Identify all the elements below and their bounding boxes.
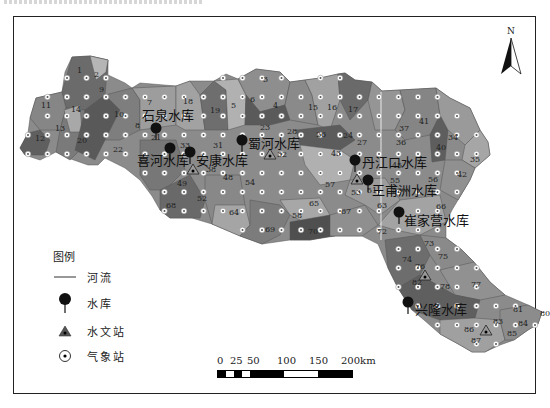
reservoir-pin-icon xyxy=(350,155,361,166)
subbasin-label: 16 xyxy=(327,103,337,112)
hydro-station-icon xyxy=(419,270,431,280)
subbasin-label: 35 xyxy=(470,155,480,164)
subbasin-label: 80 xyxy=(540,309,550,318)
reservoir-marker: 兴隆水库 xyxy=(403,297,468,318)
subbasin-label: 12 xyxy=(35,134,45,143)
weather-station-icon xyxy=(142,132,148,138)
reservoir-label: 安康水库 xyxy=(196,153,248,168)
subbasin-label: 64 xyxy=(229,208,239,217)
weather-station-icon xyxy=(240,75,246,81)
subbasin-label: 34 xyxy=(448,133,458,142)
subbasin-label: 84 xyxy=(518,319,528,328)
weather-station-icon xyxy=(45,113,51,119)
reservoir-pin-icon xyxy=(53,292,77,314)
legend-label: 气象站 xyxy=(87,348,126,364)
weather-station-icon xyxy=(259,151,265,157)
weather-station-icon xyxy=(103,151,109,157)
weather-station-icon xyxy=(240,94,246,100)
weather-station-icon xyxy=(279,113,285,119)
weather-station-icon xyxy=(337,189,343,195)
weather-station-icon xyxy=(454,265,460,271)
weather-station-icon xyxy=(64,94,70,100)
weather-station-icon xyxy=(396,265,402,271)
reservoir-label: 喜河水库 xyxy=(137,153,189,168)
weather-station-icon xyxy=(298,113,304,119)
weather-station-icon xyxy=(396,246,402,252)
weather-station-icon xyxy=(454,246,460,252)
subbasin-label: 69 xyxy=(265,225,275,234)
subbasin-label: 75 xyxy=(438,252,448,261)
weather-station-icon xyxy=(64,113,70,119)
subbasin-label: 85 xyxy=(507,329,517,338)
weather-station-icon xyxy=(279,170,285,176)
subbasin-label: 83 xyxy=(493,317,503,326)
weather-station-icon xyxy=(493,303,499,309)
subbasin-label: 73 xyxy=(424,239,434,248)
weather-station-icon xyxy=(84,151,90,157)
weather-station-icon xyxy=(357,208,363,214)
subbasin-label: 63 xyxy=(377,201,387,210)
legend-item-weather-station: 气象站 xyxy=(53,343,126,368)
weather-station-icon xyxy=(318,170,324,176)
weather-station-icon xyxy=(220,75,226,81)
subbasin-label: 11 xyxy=(41,101,51,110)
subbasin-label: 9 xyxy=(99,85,104,94)
weather-station-icon xyxy=(181,170,187,176)
weather-station-icon xyxy=(259,227,265,233)
weather-station-icon xyxy=(240,189,246,195)
weather-station-icon xyxy=(396,94,402,100)
subbasin-label: 3 xyxy=(263,75,268,84)
subbasin-label: 4 xyxy=(273,101,278,110)
weather-station-icon xyxy=(84,94,90,100)
weather-station-icon xyxy=(25,132,31,138)
subbasin-label: 26 xyxy=(316,130,326,139)
subbasin-label: 68 xyxy=(166,201,176,210)
weather-station-icon xyxy=(318,208,324,214)
weather-station-icon xyxy=(474,132,480,138)
weather-station-icon xyxy=(220,94,226,100)
weather-station-icon xyxy=(337,227,343,233)
reservoir-marker: 蜀河水库 xyxy=(237,135,301,153)
subbasin-label: 58 xyxy=(292,211,302,220)
weather-station-icon xyxy=(298,151,304,157)
weather-station-icon xyxy=(162,94,168,100)
subbasin-label: 8 xyxy=(135,121,140,130)
scale-tick: 0 xyxy=(217,355,223,366)
subbasin-label: 24 xyxy=(343,131,353,140)
subbasin-label: 40 xyxy=(436,143,446,152)
weather-station-icon xyxy=(396,227,402,233)
weather-station-icon xyxy=(357,132,363,138)
weather-station-icon xyxy=(279,208,285,214)
subbasin-label: 37 xyxy=(399,124,409,133)
weather-station-icon xyxy=(162,132,168,138)
scale-tick: 100 xyxy=(277,355,296,366)
weather-station-icon xyxy=(396,113,402,119)
legend-label: 水库 xyxy=(87,295,113,311)
subbasin-label: 15 xyxy=(308,103,318,112)
subbasin-label: 42 xyxy=(457,170,467,179)
subbasin-label: 10 xyxy=(114,110,124,119)
river-line-icon xyxy=(53,275,77,279)
weather-station-icon xyxy=(103,94,109,100)
subbasin-label: 6 xyxy=(250,95,255,104)
scale-tick: 25 xyxy=(230,355,243,366)
weather-station-icon xyxy=(181,189,187,195)
weather-station-icon xyxy=(201,94,207,100)
scale-tick: 200km xyxy=(341,355,376,366)
subbasin-label: 57 xyxy=(325,180,335,189)
weather-station-circle-icon xyxy=(53,349,77,363)
legend-item-river: 河流 xyxy=(53,266,126,288)
weather-station-icon xyxy=(357,113,363,119)
north-arrow-icon xyxy=(498,36,524,78)
legend-item-hydro-station: 水文站 xyxy=(53,318,126,343)
weather-station-icon xyxy=(84,113,90,119)
subbasin-label: 86 xyxy=(464,325,474,334)
weather-station-icon xyxy=(318,113,324,119)
weather-station-icon xyxy=(435,265,441,271)
weather-station-icon xyxy=(45,151,51,157)
weather-station-icon xyxy=(415,170,421,176)
reservoir-label: 蜀河水库 xyxy=(248,136,300,151)
weather-station-icon xyxy=(376,170,382,176)
subbasin-label: 28 xyxy=(287,127,297,136)
weather-station-icon xyxy=(435,132,441,138)
